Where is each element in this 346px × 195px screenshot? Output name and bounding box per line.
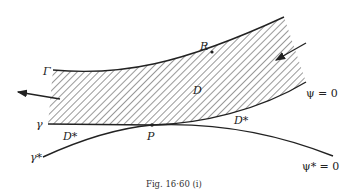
label-psi-star-zero: ψ* = 0	[302, 160, 339, 173]
label-gamma-upper: Γ	[42, 65, 51, 78]
label-gamma: γ	[36, 118, 43, 131]
label-p: P	[146, 130, 155, 143]
label-d: D	[192, 84, 202, 97]
point-p-dot	[150, 123, 154, 127]
figure-diagram: Γ R D γ γ* D* D* P ψ = 0 ψ* = 0 Fig. 16·…	[0, 0, 346, 195]
label-r: R	[199, 40, 208, 53]
curve-psi-star-zero	[43, 125, 333, 157]
label-d-star-left: D*	[62, 130, 78, 143]
label-gamma-star: γ*	[30, 151, 43, 164]
figure-caption: Fig. 16·60 (i)	[146, 179, 202, 189]
label-psi-zero: ψ = 0	[306, 87, 338, 100]
point-r-dot	[210, 50, 213, 53]
label-d-star-right: D*	[233, 114, 249, 127]
